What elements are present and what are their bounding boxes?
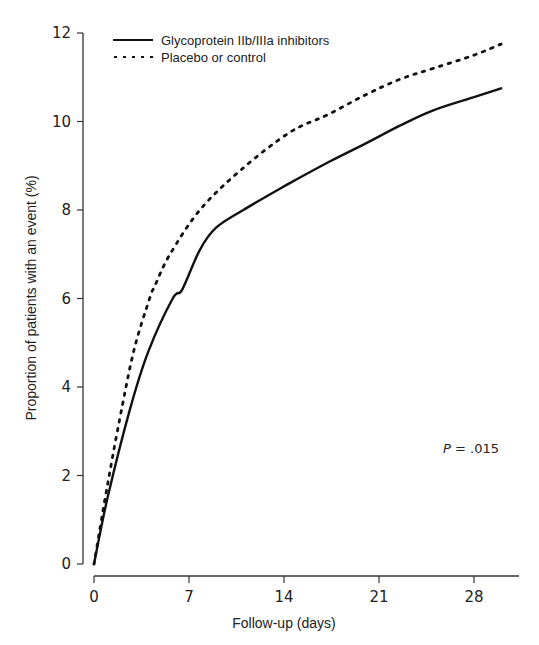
p-value-annotation: P = .015 — [443, 441, 499, 456]
y-tick-label: 6 — [61, 290, 71, 308]
x-axis-title: Follow-up (days) — [232, 615, 335, 631]
y-axis-title: Proportion of patients with an event (%) — [23, 175, 39, 420]
y-tick-label: 8 — [61, 201, 71, 219]
y-tick-label: 4 — [61, 378, 71, 396]
x-tick-label: 0 — [89, 588, 99, 606]
p-symbol: P — [443, 441, 451, 456]
x-tick-label: 28 — [464, 588, 483, 606]
series-gp-inhibitors-line — [94, 88, 501, 564]
y-tick-label: 0 — [61, 555, 71, 573]
p-value: = .015 — [451, 441, 499, 456]
y-axis: 024681012 Proportion of patients with an… — [23, 24, 83, 573]
legend: Glycoprotein IIb/IIIa inhibitors Placebo… — [113, 33, 330, 65]
legend-item-placebo: Placebo or control — [114, 50, 266, 65]
legend-label: Glycoprotein IIb/IIIa inhibitors — [161, 33, 330, 48]
series-layer — [94, 44, 501, 564]
x-axis: 07142128 Follow-up (days) — [89, 576, 519, 631]
legend-label: Placebo or control — [161, 50, 266, 65]
x-tick-label: 7 — [184, 588, 194, 606]
y-tick-label: 12 — [52, 24, 71, 42]
y-tick-label: 10 — [52, 113, 71, 131]
series-placebo-line — [94, 44, 501, 564]
x-tick-label: 21 — [369, 588, 388, 606]
kaplan-meier-chart: 024681012 Proportion of patients with an… — [0, 0, 539, 645]
legend-item-gp-inhibitors: Glycoprotein IIb/IIIa inhibitors — [113, 33, 330, 48]
y-tick-label: 2 — [61, 467, 71, 485]
x-tick-label: 14 — [274, 588, 293, 606]
